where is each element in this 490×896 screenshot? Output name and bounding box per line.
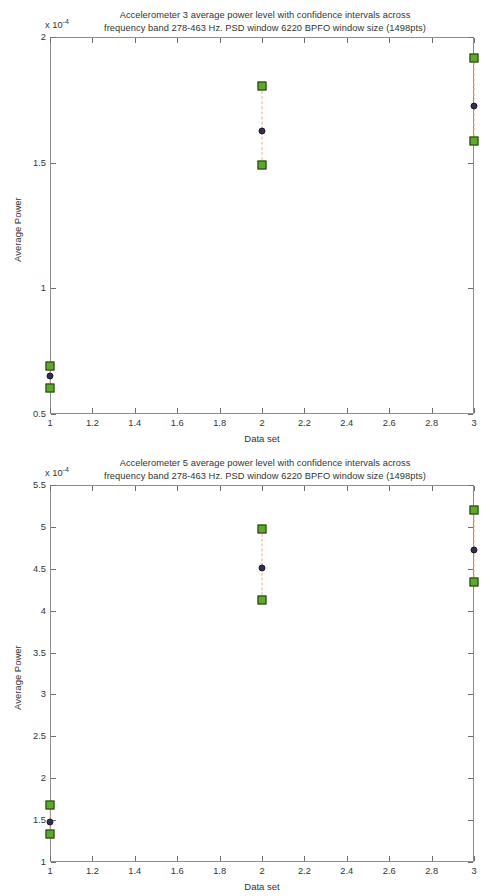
- x-axis-tick-label: 2.8: [425, 418, 438, 428]
- x-axis-tick-top: [389, 486, 390, 491]
- mean-marker: [259, 128, 266, 135]
- x-axis-tick-top: [135, 486, 136, 491]
- y-axis-label: Average Power: [12, 197, 23, 262]
- ci-upper-marker: [258, 525, 267, 534]
- ci-upper-marker: [470, 506, 479, 515]
- y-axis-tick-right: [468, 820, 473, 821]
- ci-upper-marker: [46, 362, 55, 371]
- y-axis-tick: [51, 611, 56, 612]
- ci-lower-marker: [258, 161, 267, 170]
- x-axis-tick-label: 1.2: [86, 418, 99, 428]
- ci-upper-marker: [470, 54, 479, 63]
- figure-accelerometer-3: Accelerometer 3 average power level with…: [0, 0, 490, 448]
- x-axis-tick: [304, 408, 305, 413]
- y-axis-tick: [51, 485, 56, 486]
- y-axis-tick: [51, 778, 56, 779]
- y-axis-tick-label: 1.5: [8, 815, 46, 825]
- ci-lower-marker: [258, 595, 267, 604]
- confidence-interval-line: [474, 58, 475, 141]
- y-axis-tick: [51, 288, 56, 289]
- chart-title: Accelerometer 5 average power level with…: [55, 457, 475, 483]
- y-axis-tick: [51, 694, 56, 695]
- y-axis-label: Average Power: [12, 645, 23, 710]
- x-axis-tick-label: 1: [47, 418, 52, 428]
- mean-marker: [47, 818, 54, 825]
- y-axis-tick-label: 0.5: [8, 409, 46, 419]
- x-axis-tick-top: [92, 38, 93, 43]
- y-axis-tick-right: [468, 569, 473, 570]
- x-axis-tick: [50, 408, 51, 413]
- y-axis-tick-right: [468, 694, 473, 695]
- x-axis-tick-label: 1.6: [171, 866, 184, 876]
- y-axis-tick-right: [468, 414, 473, 415]
- x-axis-tick: [347, 856, 348, 861]
- ci-lower-marker: [46, 383, 55, 392]
- x-axis-tick-top: [92, 486, 93, 491]
- y-axis-tick: [51, 163, 56, 164]
- y-axis-tick-label: 2: [8, 32, 46, 42]
- y-axis-tick-right: [468, 778, 473, 779]
- x-axis-tick: [135, 408, 136, 413]
- y-axis-tick-right: [468, 611, 473, 612]
- y-axis-tick-label: 5: [8, 522, 46, 532]
- x-axis-tick-top: [50, 38, 51, 43]
- exponent-base: x 10: [45, 20, 63, 30]
- y-axis-tick: [51, 37, 56, 38]
- y-axis-tick: [51, 862, 56, 863]
- y-axis-tick-right: [468, 862, 473, 863]
- x-axis-tick: [262, 408, 263, 413]
- y-axis-tick-label: 4.5: [8, 564, 46, 574]
- y-axis-tick-right: [468, 37, 473, 38]
- ci-lower-marker: [470, 137, 479, 146]
- x-axis-tick-top: [135, 38, 136, 43]
- y-axis-tick-right: [468, 163, 473, 164]
- x-axis-tick: [220, 856, 221, 861]
- x-axis-tick-top: [262, 486, 263, 491]
- y-axis-exponent-label: x 10-4: [45, 18, 69, 30]
- x-axis-tick-label: 2.2: [298, 866, 311, 876]
- x-axis-tick-label: 2.4: [340, 418, 353, 428]
- x-axis-tick-label: 2.6: [383, 866, 396, 876]
- x-axis-label: Data set: [202, 881, 322, 892]
- x-axis-tick-label: 2.4: [340, 866, 353, 876]
- y-axis-tick-label: 1.5: [8, 158, 46, 168]
- chart-title: Accelerometer 3 average power level with…: [55, 9, 475, 35]
- x-axis-tick-top: [347, 486, 348, 491]
- x-axis-tick-top: [389, 38, 390, 43]
- x-axis-tick-top: [177, 486, 178, 491]
- exponent-base: x 10: [45, 468, 63, 478]
- x-axis-tick: [432, 856, 433, 861]
- y-axis-exponent-label: x 10-4: [45, 466, 69, 478]
- y-axis-tick-label: 5.5: [8, 480, 46, 490]
- x-axis-tick: [92, 408, 93, 413]
- y-axis-tick: [51, 527, 56, 528]
- x-axis-tick: [432, 408, 433, 413]
- x-axis-tick-top: [474, 38, 475, 43]
- x-axis-tick: [177, 408, 178, 413]
- y-axis-tick-label: 1: [8, 857, 46, 867]
- y-axis-tick-right: [468, 288, 473, 289]
- x-axis-tick: [347, 408, 348, 413]
- y-axis-tick: [51, 414, 56, 415]
- x-axis-tick: [177, 856, 178, 861]
- x-axis-tick-label: 2.6: [383, 418, 396, 428]
- x-axis-tick: [474, 856, 475, 861]
- y-axis-tick-right: [468, 736, 473, 737]
- confidence-interval-line: [262, 86, 263, 165]
- x-axis-tick: [220, 408, 221, 413]
- x-axis-tick-label: 1.4: [128, 866, 141, 876]
- x-axis-tick: [474, 408, 475, 413]
- y-axis-tick-label: 2.5: [8, 731, 46, 741]
- x-axis-tick-label: 2.8: [425, 866, 438, 876]
- mean-marker: [471, 103, 478, 110]
- y-axis-tick: [51, 569, 56, 570]
- x-axis-tick-label: 1: [47, 866, 52, 876]
- y-axis-tick-label: 4: [8, 606, 46, 616]
- x-axis-tick-top: [220, 486, 221, 491]
- y-axis-tick-right: [468, 653, 473, 654]
- exponent-power: -4: [63, 18, 69, 25]
- x-axis-tick: [262, 856, 263, 861]
- x-axis-tick-label: 2: [259, 418, 264, 428]
- x-axis-tick-label: 1.2: [86, 866, 99, 876]
- x-axis-tick: [50, 856, 51, 861]
